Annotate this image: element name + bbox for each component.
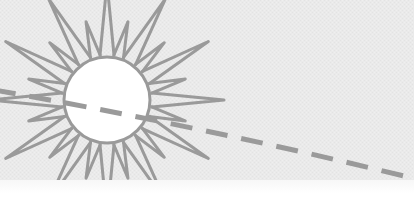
bottom-white-band [0, 180, 414, 210]
sun-core-circle [64, 57, 150, 143]
illustration-canvas [0, 0, 414, 210]
sun-illustration-svg [0, 0, 414, 210]
